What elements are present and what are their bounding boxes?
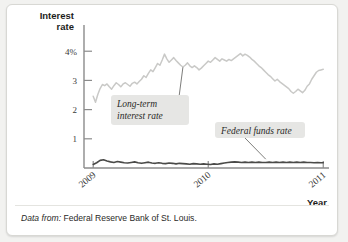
x-tick-label-2010: 2010 bbox=[192, 170, 213, 190]
series-long-term-interest-rate bbox=[93, 54, 323, 103]
caption-source: Federal Reserve Bank of St. Louis. bbox=[64, 213, 197, 223]
y-axis-title-line2: rate bbox=[57, 21, 74, 32]
screenshot-root: 1234% 200920102011 Long-term interest ra… bbox=[0, 0, 348, 242]
y-tick-marks bbox=[84, 51, 92, 139]
x-tick-label-2009: 2009 bbox=[77, 170, 98, 190]
y-axis-group: 1234% bbox=[65, 25, 92, 168]
y-axis-title-line1: Interest bbox=[40, 10, 75, 21]
long-term-leader-line bbox=[179, 67, 183, 97]
federal-funds-annotation-label: Federal funds rate bbox=[220, 126, 292, 136]
x-tick-labels: 200920102011 bbox=[77, 170, 328, 190]
figure-caption: Data from: Federal Reserve Bank of St. L… bbox=[21, 213, 321, 223]
interest-rate-line-chart: 1234% 200920102011 Long-term interest ra… bbox=[7, 5, 337, 235]
long-term-annotation-line1: Long-term bbox=[116, 99, 157, 109]
y-tick-label-1: 1 bbox=[73, 134, 78, 144]
y-tick-label-2: 2 bbox=[73, 105, 78, 115]
long-term-annotation-line2: interest rate bbox=[117, 111, 163, 121]
federal-funds-leader-line bbox=[245, 138, 266, 159]
y-tick-label-4%: 4% bbox=[65, 47, 78, 57]
caption-text-row: Data from: Federal Reserve Bank of St. L… bbox=[21, 213, 321, 223]
y-tick-labels: 1234% bbox=[65, 47, 78, 145]
caption-divider bbox=[15, 205, 329, 206]
x-axis-title: Year bbox=[307, 197, 327, 208]
figure-card: 1234% 200920102011 Long-term interest ra… bbox=[6, 4, 338, 236]
caption-prefix: Data from: bbox=[21, 213, 61, 223]
chart-canvas: 1234% 200920102011 Long-term interest ra… bbox=[7, 5, 337, 235]
y-tick-label-3: 3 bbox=[73, 76, 78, 86]
x-axis-group: 200920102011 bbox=[77, 161, 329, 190]
x-tick-label-2011: 2011 bbox=[307, 170, 328, 190]
